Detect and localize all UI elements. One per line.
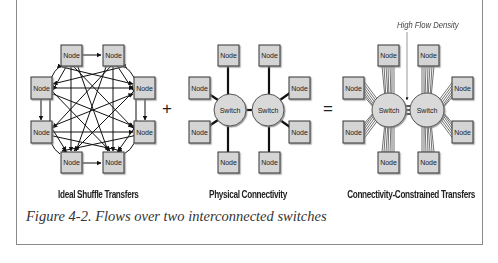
- svg-text:Node: Node: [345, 129, 362, 136]
- svg-text:Node: Node: [63, 159, 80, 166]
- svg-text:Node: Node: [420, 159, 437, 166]
- svg-text:Switch: Switch: [258, 107, 279, 114]
- svg-text:Node: Node: [220, 159, 237, 166]
- figure-caption: Figure 4-2. Flows over two interconnecte…: [26, 208, 327, 225]
- svg-text:Node: Node: [191, 85, 208, 92]
- svg-text:Node: Node: [63, 52, 80, 59]
- svg-text:Node: Node: [33, 85, 50, 92]
- svg-text:Node: Node: [136, 129, 153, 136]
- svg-text:Node: Node: [261, 159, 278, 166]
- svg-text:Node: Node: [380, 159, 397, 166]
- high-flow-density-annotation: High Flow Density: [397, 20, 459, 30]
- equals-operator: =: [323, 99, 333, 119]
- svg-text:Node: Node: [220, 52, 237, 59]
- svg-text:Node: Node: [380, 52, 397, 59]
- svg-text:Node: Node: [261, 52, 278, 59]
- svg-text:Node: Node: [105, 159, 122, 166]
- svg-text:Switch: Switch: [417, 107, 438, 114]
- svg-text:Node: Node: [291, 85, 308, 92]
- panel-title-ideal-shuffle: Ideal Shuffle Transfers: [58, 189, 132, 200]
- svg-text:Node: Node: [136, 85, 153, 92]
- svg-text:Node: Node: [454, 129, 471, 136]
- constrained-transfers-diagram: [363, 32, 454, 152]
- svg-text:Node: Node: [291, 129, 308, 136]
- svg-text:Node: Node: [420, 52, 437, 59]
- panel-title-constrained-transfers: Connectivity-Constrained Transfers: [347, 189, 458, 200]
- svg-text:Switch: Switch: [220, 107, 241, 114]
- svg-text:Node: Node: [454, 85, 471, 92]
- panel-title-physical-connectivity: Physical Connectivity: [209, 189, 291, 200]
- svg-text:Switch: Switch: [379, 107, 400, 114]
- svg-text:Node: Node: [105, 52, 122, 59]
- ideal-shuffle-diagram: [41, 55, 145, 163]
- svg-text:Node: Node: [33, 129, 50, 136]
- svg-text:Node: Node: [191, 129, 208, 136]
- plus-operator: +: [162, 99, 172, 119]
- svg-text:Node: Node: [345, 85, 362, 92]
